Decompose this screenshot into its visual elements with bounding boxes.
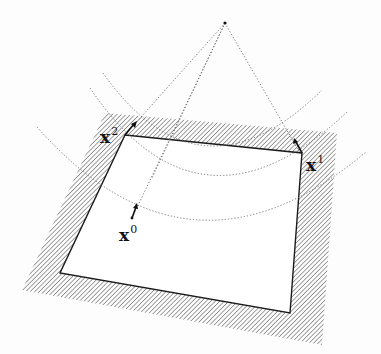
apex-point [223,21,226,24]
label-x1: x1 [306,157,324,174]
label-x0: x0 [119,227,137,244]
diagram-svg [0,0,381,354]
diagram-canvas: x2 x1 x0 [0,0,381,354]
label-x2: x2 [100,129,118,146]
x0-point [131,217,134,220]
